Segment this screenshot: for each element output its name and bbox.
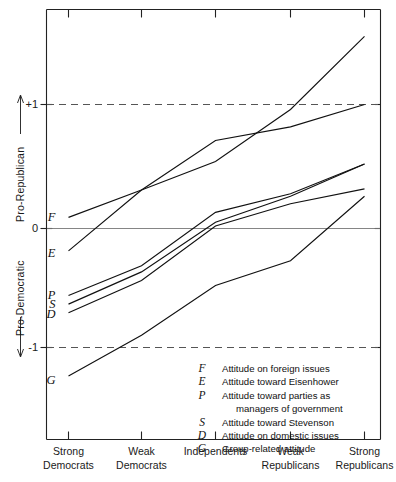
line-chart: +1 0 -1 Pro-Republican Pro-Democratic FE… [0, 0, 396, 482]
legend-key-S: S [199, 416, 205, 428]
series-label-E: E [47, 246, 56, 260]
y-axis-title-pro-republican: Pro-Republican [14, 95, 26, 222]
x-axis-category-labels: StrongDemocratsWeakDemocratsIndependents… [43, 445, 393, 471]
series-label-F: F [47, 210, 56, 224]
legend-text-G-1: Group-related attitude [222, 443, 315, 454]
legend-entry-S: SAttitude toward Stevenson [199, 416, 334, 428]
legend-key-D: D [197, 429, 207, 441]
x-category-5: StrongRepublicans [336, 445, 394, 471]
legend-key-E: E [197, 375, 205, 387]
legend-text-F-1: Attitude on foreign issues [222, 363, 330, 374]
legend-text-E-1: Attitude toward Eisenhower [222, 376, 340, 387]
ytick-label-zero: 0 [32, 222, 38, 234]
ytick-label-minus1: -1 [28, 341, 38, 353]
x-category-line2: Democrats [43, 459, 94, 471]
legend-text-D-1: Attitude on domestic issues [222, 430, 339, 441]
plot-frame [47, 10, 381, 440]
legend-entry-F: FAttitude on foreign issues [197, 362, 329, 374]
legend-entry-P: PAttitude toward parties asmanagers of g… [197, 389, 343, 414]
legend-entry-E: EAttitude toward Eisenhower [197, 375, 339, 387]
series-line-S [69, 164, 365, 304]
x-category-line2: Republicans [262, 459, 320, 471]
legend-text-S-1: Attitude toward Stevenson [222, 417, 334, 428]
y-axis-lower-label: Pro-Democratic [14, 260, 26, 336]
x-category-line2: Democrats [116, 459, 167, 471]
ytick-label-plus1: +1 [25, 98, 38, 110]
x-category-line1: Strong [53, 445, 84, 457]
series-label-D: D [45, 307, 55, 321]
legend-key-P: P [197, 389, 205, 401]
legend-key-F: F [197, 362, 206, 374]
series-label-G: G [46, 373, 55, 387]
y-axis-title-pro-democratic: Pro-Democratic [14, 260, 26, 357]
legend-text-P-2: managers of government [236, 403, 343, 414]
x-category-line2: Republicans [336, 459, 394, 471]
chart-legend: FAttitude on foreign issuesEAttitude tow… [197, 362, 343, 454]
y-axis-upper-label: Pro-Republican [14, 147, 26, 222]
figure-container: +1 0 -1 Pro-Republican Pro-Democratic FE… [0, 0, 396, 482]
series-line-G [69, 196, 365, 376]
legend-text-P-1: Attitude toward parties as [222, 390, 330, 401]
x-category-1: StrongDemocrats [43, 445, 94, 471]
x-category-line1: Weak [128, 445, 155, 457]
x-category-2: WeakDemocrats [116, 445, 167, 471]
series-layer [69, 36, 365, 376]
legend-key-G: G [198, 442, 207, 454]
series-line-F [69, 36, 365, 217]
x-category-line1: Strong [349, 445, 380, 457]
series-line-D [69, 189, 365, 313]
series-inline-labels: FEPSDG [45, 210, 56, 387]
top-axis-ticks [69, 10, 365, 18]
